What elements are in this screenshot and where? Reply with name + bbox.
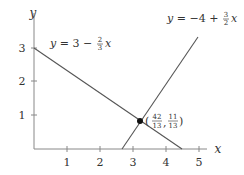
intersection-point [137, 118, 143, 124]
svg-text:11: 11 [169, 113, 178, 121]
svg-text:x: x [231, 12, 238, 25]
svg-text:2: 2 [98, 36, 102, 44]
svg-text:3: 3 [98, 44, 102, 52]
y-tick-label: 2 [19, 75, 26, 88]
x-axis-label: x [215, 142, 222, 156]
svg-text:y = 3 −: y = 3 − [49, 37, 92, 50]
svg-text:13: 13 [169, 122, 178, 130]
y-axis-label: y [29, 6, 37, 20]
svg-text:): ) [179, 115, 183, 128]
line-decreasing-label: y = 3 − 2 3 x [49, 36, 112, 52]
svg-text:x: x [105, 37, 112, 50]
x-tick-label: 4 [163, 156, 170, 169]
line-increasing-label: y = −4 + 3 2 x [166, 11, 238, 27]
x-tick-label: 1 [64, 156, 71, 169]
y-tick-label: 3 [19, 42, 26, 55]
svg-text:13: 13 [153, 122, 162, 130]
x-tick-label: 5 [196, 156, 203, 169]
svg-text:3: 3 [224, 11, 228, 19]
line-increasing [122, 37, 198, 149]
svg-text:y = −4 +: y = −4 + [166, 12, 218, 25]
svg-text:(: ( [145, 115, 149, 128]
x-tick-label: 3 [130, 156, 137, 169]
chart: 1 2 3 4 5 1 2 3 y x y = 3 − 2 3 x y = −4… [0, 0, 244, 175]
svg-text:42: 42 [153, 113, 162, 121]
line-decreasing [34, 48, 182, 149]
svg-text:2: 2 [224, 19, 228, 27]
y-tick-label: 1 [19, 109, 26, 122]
x-tick-label: 2 [97, 156, 104, 169]
svg-text:,: , [163, 116, 167, 129]
